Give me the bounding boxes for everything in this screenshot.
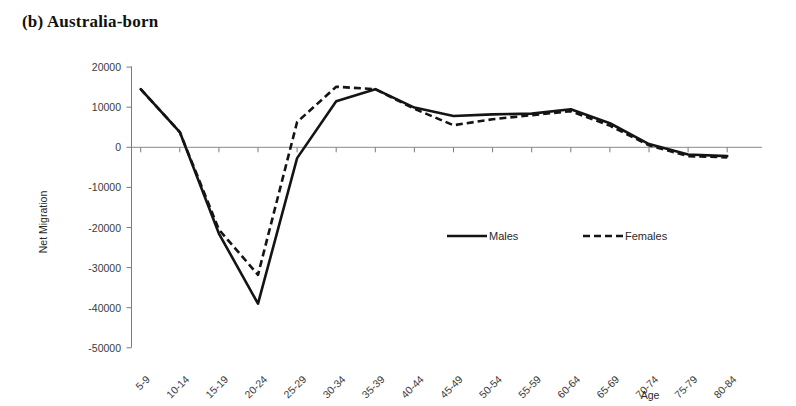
x-axis-title: Age <box>641 389 660 401</box>
y-tick-label: -20000 <box>88 222 121 234</box>
series-line-females <box>141 87 728 275</box>
x-axis-ticks <box>141 147 728 152</box>
x-tick-label: 40-44 <box>398 373 426 401</box>
x-tick-label: 15-19 <box>203 373 231 401</box>
x-tick-label: 60-64 <box>555 373 583 401</box>
y-axis-title: Net Migration <box>37 191 49 254</box>
x-tick-label: 80-84 <box>711 373 739 401</box>
x-tick-label: 55-59 <box>516 373 544 401</box>
y-tick-label: -40000 <box>88 302 121 314</box>
x-tick-label: 75-79 <box>672 373 700 401</box>
series-line-males <box>141 89 728 304</box>
x-tick-label: 25-29 <box>281 373 309 401</box>
line-chart: 20000100000-10000-20000-30000-40000-5000… <box>0 0 796 406</box>
y-tick-label: -30000 <box>88 262 121 274</box>
panel-title: (b) Australia-born <box>22 12 158 32</box>
figure-panel: (b) Australia-born 20000100000-10000-200… <box>0 0 796 406</box>
x-tick-label: 65-69 <box>594 373 622 401</box>
x-tick-label: 30-34 <box>320 373 348 401</box>
y-axis-ticks <box>127 67 132 348</box>
x-tick-label: 50-54 <box>477 373 505 401</box>
x-tick-label: 45-49 <box>437 373 465 401</box>
y-tick-label: 20000 <box>92 61 121 73</box>
x-tick-label: 20-24 <box>242 373 270 401</box>
x-tick-label: 35-39 <box>359 373 387 401</box>
legend-label-males: Males <box>489 230 519 242</box>
chart-legend: Males Females <box>447 230 668 242</box>
x-tick-label: 5-9 <box>133 373 152 392</box>
y-tick-label: -50000 <box>88 342 121 354</box>
y-tick-label: -10000 <box>88 181 121 193</box>
legend-label-females: Females <box>625 230 668 242</box>
y-tick-label: 10000 <box>92 101 121 113</box>
x-tick-label: 10-14 <box>164 373 192 401</box>
y-axis-tick-labels: 20000100000-10000-20000-30000-40000-5000… <box>88 61 121 354</box>
y-tick-label: 0 <box>115 141 121 153</box>
